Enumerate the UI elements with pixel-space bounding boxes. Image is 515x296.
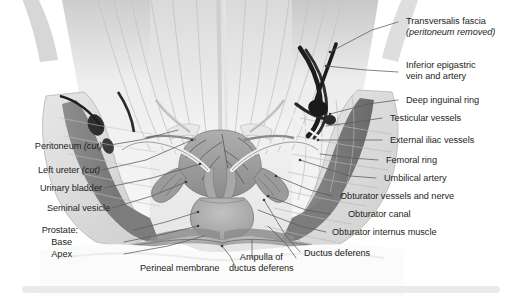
- label-testicular-vessels: Testicular vessels: [390, 113, 461, 124]
- label-prostate-apex: Apex: [51, 249, 72, 260]
- label-seminal-vesicle: Seminal vesicle: [47, 203, 110, 214]
- label-obturator-internus-muscle: Obturator internus muscle: [332, 227, 436, 238]
- label-umbilical-artery: Umbilical artery: [384, 173, 447, 184]
- label-femoral-ring: Femoral ring: [386, 155, 437, 166]
- label-inferior-epigastric: Inferior epigastric vein and artery: [406, 60, 476, 81]
- label-deep-inguinal-ring: Deep inguinal ring: [406, 95, 479, 106]
- label-ductus-deferens: Ductus deferens: [304, 248, 370, 259]
- label-perineal-membrane: Perineal membrane: [140, 263, 219, 274]
- label-prostate-base: Base: [51, 237, 72, 248]
- anatomy-figure: Transversalis fascia (peritoneum removed…: [0, 0, 515, 296]
- label-ampulla-of-ductus-deferens: Ampulla of ductus deferens: [229, 252, 294, 273]
- label-external-iliac-vessels: External iliac vessels: [390, 135, 474, 146]
- label-obturator-canal: Obturator canal: [348, 209, 411, 220]
- label-transversalis-fascia: Transversalis fascia (peritoneum removed…: [406, 16, 495, 37]
- label-peritoneum-cut: Peritoneum (cut): [35, 141, 102, 152]
- label-urinary-bladder: Urinary bladder: [40, 183, 102, 194]
- label-left-ureter-cut: Left ureter (cut): [38, 165, 100, 176]
- bottom-accent-band: [22, 286, 500, 293]
- label-prostate: Prostate:: [42, 225, 78, 236]
- label-obturator-vessels-and-nerve: Obturator vessels and nerve: [340, 191, 454, 202]
